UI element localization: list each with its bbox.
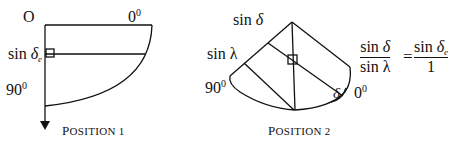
- equation-lhs-fraction: sin δ sin λ: [360, 39, 390, 76]
- rhs-delta-symbol: δ: [437, 38, 444, 55]
- p2-zero-value: 0: [354, 84, 362, 101]
- p1-arrow-head-icon: [40, 121, 50, 130]
- p1-ninety-sup: 0: [22, 80, 27, 91]
- p1-zero-value: 0: [128, 8, 136, 25]
- p2-ninety-sup: 0: [221, 78, 226, 89]
- p2-left-edge: [230, 22, 292, 76]
- p1-caption: POSITION 1: [62, 123, 124, 139]
- rhs-delta-sub: e: [444, 47, 448, 57]
- rhs-sin-text: sin: [414, 38, 437, 55]
- p1-origin-label: O: [23, 9, 35, 25]
- p1-right-angle-marker: [46, 49, 54, 57]
- p1-ninety-value: 90: [6, 81, 22, 98]
- p2-ninety-value: 90: [205, 79, 221, 96]
- p1-ninety-degree-label: 900: [6, 82, 27, 98]
- p1-delta-symbol: δ: [31, 45, 38, 62]
- equation-lhs-numerator: sin δ: [360, 39, 390, 56]
- p2-vertical-line: [292, 22, 295, 110]
- p2-sin-delta-chord: [268, 43, 343, 96]
- lhs-delta-symbol: δ: [383, 38, 390, 55]
- p1-delta-sub: e: [38, 54, 42, 64]
- p1-sin-delta-e-label: sin δe: [8, 46, 42, 62]
- equation-rhs-numerator: sin δe: [414, 39, 448, 56]
- equation-rhs-denominator: 1: [427, 59, 435, 76]
- equation-rhs-fraction: sin δe 1: [414, 39, 448, 76]
- p1-zero-degree-label: 00: [128, 9, 141, 25]
- lhs-sin-text: sin: [360, 38, 383, 55]
- p2-ninety-degree-label: 900: [205, 80, 226, 96]
- p2-delta-angle-label: δ: [333, 86, 340, 101]
- position1-figure: [45, 25, 152, 124]
- equation-lhs-denominator: sin λ: [360, 59, 390, 76]
- p2-zero-sup: 0: [362, 83, 367, 94]
- p2-caption-rest: OSITION 2: [276, 125, 331, 137]
- p2-sin-text: sin: [233, 11, 256, 28]
- p2-sin-delta-label: sin δ: [233, 12, 263, 28]
- p2-caption-initial: P: [268, 123, 276, 138]
- p1-arc: [45, 25, 152, 106]
- equals-sign: =: [403, 47, 413, 67]
- p2-sin-lambda-chord: [244, 63, 294, 110]
- p2-sin-lambda-label: sin λ: [207, 46, 237, 62]
- p1-zero-sup: 0: [136, 7, 141, 18]
- p2-zero-degree-label: 00: [354, 85, 367, 101]
- p2-delta-symbol: δ: [256, 11, 263, 28]
- p2-right-edge: [292, 22, 350, 67]
- p1-caption-initial: P: [62, 123, 70, 138]
- p2-caption: POSITION 2: [268, 123, 330, 139]
- p1-sin-text: sin: [8, 45, 31, 62]
- p1-caption-rest: OSITION 1: [70, 125, 125, 137]
